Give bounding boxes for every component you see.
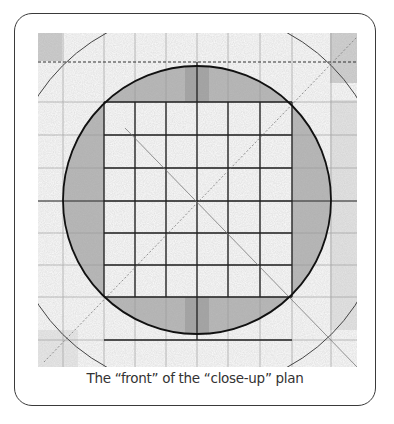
close-up-plan-drawing: [0, 0, 394, 424]
figure-caption: The “front” of the “close-up” plan: [14, 370, 376, 386]
